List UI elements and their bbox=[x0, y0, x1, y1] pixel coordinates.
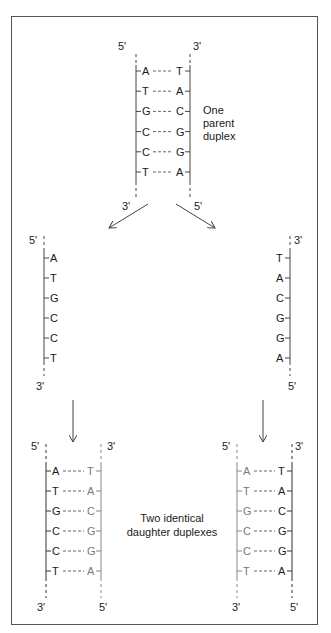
parent-top-right-label: 3' bbox=[193, 40, 201, 52]
daughter-left-base-right: C bbox=[87, 505, 95, 517]
dl-top-right-label: 3' bbox=[107, 440, 115, 452]
parent-base-right: A bbox=[176, 166, 184, 178]
daughter-right-base-left: C bbox=[243, 525, 251, 537]
daughter-duplex-right: 5' 3' ATTAGCCGCGTA 3' 5' bbox=[222, 440, 303, 613]
separated-left-strand: 5' ATGCCT 3' bbox=[29, 234, 59, 392]
separated-right-strand: 3' TACGGA 5' bbox=[276, 234, 302, 392]
parent-base-left: T bbox=[142, 166, 149, 178]
daughter-right-base-left: G bbox=[243, 505, 252, 517]
daughter-left-base-right: A bbox=[87, 485, 95, 497]
parent-bottom-right-label: 5' bbox=[194, 200, 202, 212]
daughter-left-base-left: G bbox=[52, 505, 61, 517]
daughter-right-base-right: A bbox=[278, 485, 286, 497]
daughter-right-base-right: G bbox=[278, 525, 287, 537]
sep-right-top-label: 3' bbox=[294, 234, 302, 246]
parent-base-left: C bbox=[142, 126, 150, 138]
daughter-right-base-right: A bbox=[278, 565, 286, 577]
daughter-right-base-left: T bbox=[243, 565, 250, 577]
sep-left-base: G bbox=[50, 292, 59, 304]
daughter-left-base-left: C bbox=[52, 525, 60, 537]
daughter-left-base-right: G bbox=[87, 545, 96, 557]
daughter-right-base-right: T bbox=[278, 465, 285, 477]
parent-base-left: A bbox=[142, 65, 150, 77]
daughter-caption-line-1: Two identical bbox=[140, 512, 204, 524]
dr-bottom-right-label: 5' bbox=[290, 601, 298, 613]
parent-duplex: 5' 3' ATTAGCCGCGTA 3' 5' One parent dupl… bbox=[118, 40, 236, 212]
dr-bottom-left-label: 3' bbox=[232, 601, 240, 613]
dl-top-left-label: 5' bbox=[31, 440, 39, 452]
parent-base-right: C bbox=[176, 105, 184, 117]
daughter-right-base-right: G bbox=[278, 545, 287, 557]
daughter-left-base-left: T bbox=[52, 565, 59, 577]
dl-bottom-left-label: 3' bbox=[37, 601, 45, 613]
dr-top-right-label: 3' bbox=[295, 440, 303, 452]
parent-base-left: G bbox=[142, 105, 151, 117]
daughter-left-base-left: A bbox=[52, 465, 60, 477]
parent-caption-line-3: duplex bbox=[203, 130, 236, 142]
daughter-caption-line-2: daughter duplexes bbox=[127, 526, 218, 538]
daughter-left-base-left: C bbox=[52, 545, 60, 557]
sep-left-base: T bbox=[50, 272, 57, 284]
daughter-right-base-left: T bbox=[243, 485, 250, 497]
sep-right-base: G bbox=[276, 332, 285, 344]
daughter-left-base-right: A bbox=[87, 565, 95, 577]
sep-left-bottom-label: 3' bbox=[36, 380, 44, 392]
replication-diagram: 5' 3' ATTAGCCGCGTA 3' 5' One parent dupl… bbox=[0, 0, 331, 633]
sep-left-base: C bbox=[50, 332, 58, 344]
parent-base-left: T bbox=[142, 85, 149, 97]
parent-base-right: A bbox=[176, 85, 184, 97]
dl-bottom-right-label: 5' bbox=[99, 601, 107, 613]
parent-top-left-label: 5' bbox=[118, 40, 126, 52]
sep-right-base: A bbox=[276, 352, 284, 364]
sep-right-base: T bbox=[276, 252, 283, 264]
sep-right-base: A bbox=[276, 272, 284, 284]
parent-bottom-left-label: 3' bbox=[122, 200, 130, 212]
parent-caption-line-1: One bbox=[203, 104, 224, 116]
parent-base-right: G bbox=[176, 146, 185, 158]
parent-caption-line-2: parent bbox=[203, 117, 234, 129]
sep-right-base: G bbox=[276, 312, 285, 324]
daughter-left-base-left: T bbox=[52, 485, 59, 497]
daughter-left-base-right: T bbox=[87, 465, 94, 477]
sep-right-bottom-label: 5' bbox=[288, 380, 296, 392]
sep-right-base: C bbox=[276, 292, 284, 304]
parent-base-right: T bbox=[176, 65, 183, 77]
sep-left-base: C bbox=[50, 312, 58, 324]
sep-left-base: A bbox=[50, 252, 58, 264]
daughter-right-base-left: A bbox=[243, 465, 251, 477]
daughter-left-base-right: G bbox=[87, 525, 96, 537]
parent-base-right: G bbox=[176, 126, 185, 138]
sep-left-top-label: 5' bbox=[29, 234, 37, 246]
parent-base-left: C bbox=[142, 146, 150, 158]
sep-left-base: T bbox=[50, 352, 57, 364]
dr-top-left-label: 5' bbox=[222, 440, 230, 452]
daughter-right-base-right: C bbox=[278, 505, 286, 517]
daughter-duplex-left: 5' 3' ATTAGCCGCGTA 3' 5' bbox=[31, 440, 115, 613]
daughter-right-base-left: C bbox=[243, 545, 251, 557]
